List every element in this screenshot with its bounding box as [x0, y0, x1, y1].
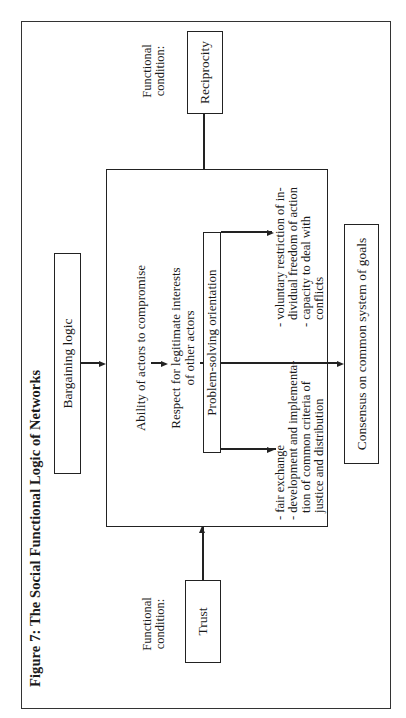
fc-right-line2: condition: [154, 31, 167, 111]
problem-solving-label: Problem-solving orientation [204, 269, 220, 415]
functional-condition-right-label: Functional condition: [141, 31, 167, 111]
left-branch-line [221, 449, 272, 451]
arrow-head-icon [267, 447, 274, 453]
arrow-head-icon [199, 526, 205, 533]
arrow-bargaining-main [81, 363, 100, 365]
functional-condition-left-label: Functional condition: [141, 584, 167, 664]
consensus-label: Consensus on common system of goals [354, 238, 370, 451]
arrow-reciprocity-main [203, 114, 205, 169]
arrow-trust-main [202, 525, 204, 580]
bargaining-logic-box: Bargaining logic [54, 253, 81, 474]
bargaining-logic-label: Bargaining logic [60, 318, 76, 408]
reciprocity-box: Reciprocity [187, 31, 223, 114]
figure-canvas: Figure 7: The Social Functional Logic of… [21, 19, 393, 709]
step2-line2: of other actors [183, 169, 197, 527]
consensus-box: Consensus on common system of goals [344, 224, 379, 464]
fc-left-line2: condition: [154, 584, 167, 664]
step-ability-compromise: Ability of actors to compromise [134, 169, 148, 527]
reciprocity-label: Reciprocity [197, 41, 213, 104]
arrow-head-icon [337, 361, 344, 367]
step2-line1: Respect for legitimate interests [169, 169, 183, 527]
left-outcome-list: - fair exchange - development and implem… [274, 361, 326, 520]
trust-label: Trust [195, 607, 211, 635]
right-list-item: conflicts [313, 187, 326, 327]
right-outcome-list: - voluntary restriction of in- dividual … [274, 187, 326, 327]
left-list-item: justice and distribution [313, 361, 326, 520]
right-branch-line [221, 232, 272, 234]
figure-title: Figure 7: The Social Functional Logic of… [27, 370, 44, 687]
trust-box: Trust [185, 580, 221, 663]
step-respect-interests: Respect for legitimate interests of othe… [169, 169, 197, 527]
problem-solving-box: Problem-solving orientation [203, 232, 221, 453]
arrow-main-consensus [221, 363, 339, 365]
arrow-head-icon [161, 361, 168, 367]
arrow-head-icon [99, 361, 106, 367]
